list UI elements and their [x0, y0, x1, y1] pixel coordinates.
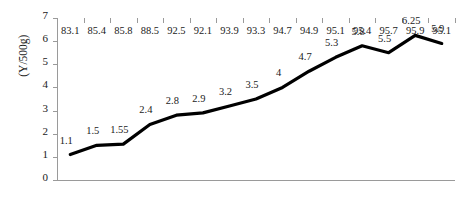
y-tick-label: 7	[43, 10, 49, 21]
y-tick-label: 6	[43, 33, 49, 44]
series-line	[70, 35, 441, 154]
data-label: 2.9	[192, 94, 205, 105]
y-tick-label: 0	[43, 172, 49, 183]
data-label: 1.5	[86, 126, 99, 137]
y-tick-label: 2	[43, 126, 49, 137]
data-label: 1.1	[60, 135, 73, 146]
data-label: 4	[276, 68, 281, 79]
data-label: 1.55	[110, 125, 128, 136]
plot-area: 01234567 83.185.485.888.592.592.193.993.…	[57, 18, 455, 180]
data-label: 2.4	[139, 105, 152, 116]
data-label: 2.8	[166, 96, 179, 107]
data-label: 3.5	[245, 80, 258, 91]
data-label: 3.2	[219, 87, 232, 98]
data-label: 5.9	[431, 24, 444, 35]
y-axis-title: (Y/500g)	[18, 55, 30, 77]
y-tick: 0	[53, 180, 58, 181]
x-axis-line	[57, 180, 455, 181]
data-label: 5.8	[352, 27, 365, 38]
data-label: 4.7	[299, 52, 312, 63]
chart-figure: (Y/500g) 01234567 83.185.485.888.592.592…	[0, 0, 469, 209]
line-series	[57, 18, 455, 180]
y-tick-label: 5	[43, 56, 49, 67]
x-tick	[455, 18, 456, 23]
data-label: 5.3	[325, 38, 338, 49]
y-tick-label: 1	[43, 149, 49, 160]
data-label: 6.25	[402, 16, 420, 27]
y-tick-label: 3	[43, 103, 49, 114]
y-tick-label: 4	[43, 79, 49, 90]
data-label: 5.5	[378, 33, 391, 44]
